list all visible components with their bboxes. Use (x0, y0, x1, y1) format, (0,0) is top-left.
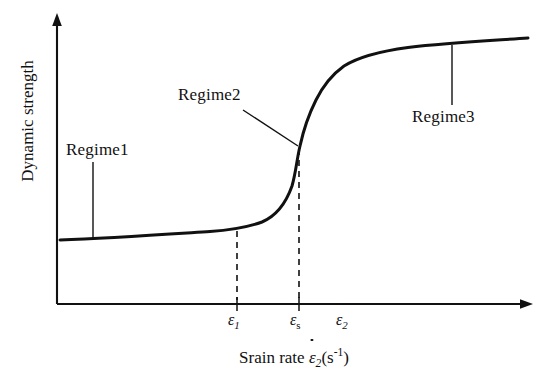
x-axis-label: Srain rate ε2(s-1) (239, 348, 349, 367)
annotation-label-regime1: Regime1 (66, 141, 129, 158)
leader-line-regime2 (243, 110, 298, 146)
epsilon-dot-icon (230, 303, 233, 306)
annotation-label-regime3: Regime3 (412, 108, 475, 125)
tick-subscript-1: 1 (234, 319, 239, 331)
dynamic-strength-curve (60, 38, 528, 240)
x-axis-units-exponent: -1 (334, 346, 344, 359)
x-axis-units-open: (s (321, 348, 333, 367)
y-axis (52, 13, 62, 304)
tick-epsilon-symbol-2: ε (336, 312, 342, 328)
tick-subscript-s: s (296, 319, 300, 331)
annotation-leader-lines (93, 45, 452, 239)
figure-canvas: Regime1 Regime2 Regime3 Dynamic strength… (0, 0, 552, 381)
y-axis-label: Dynamic strength (18, 60, 37, 181)
tick-label-epsilon-1: ε1 (228, 312, 240, 331)
tick-subscript-2: 2 (342, 319, 347, 331)
x-axis-epsilon-symbol: ε (309, 349, 316, 366)
chart-svg (0, 0, 552, 381)
annotation-label-regime2: Regime2 (178, 86, 241, 103)
x-axis-label-text: Srain rate (239, 348, 305, 367)
tick-label-epsilon-2: ε2 (336, 312, 348, 331)
x-axis-units-close: ) (343, 348, 349, 367)
tick-epsilon-symbol-s: ε (290, 312, 296, 328)
tick-epsilon-symbol-1: ε (228, 312, 234, 328)
epsilon-dot-icon (338, 303, 341, 306)
epsilon-dot-icon (311, 339, 314, 342)
x-axis-label-wrapper: Srain rate ε2(s-1) (184, 347, 404, 370)
dashed-guide-lines (237, 149, 299, 300)
y-axis-label-wrapper: Dynamic strength (19, 31, 37, 211)
tick-label-epsilon-s: εs (290, 312, 301, 331)
epsilon-dot-icon (292, 303, 295, 306)
x-axis (57, 299, 533, 308)
